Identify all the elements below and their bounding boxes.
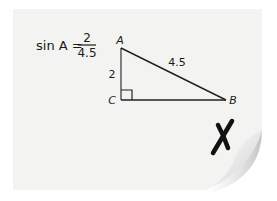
side-ab-label: 4.5 [168,56,186,69]
vertex-b-label: B [229,94,237,107]
vertex-a-label: A [115,34,124,47]
fraction-denominator: 4.5 [77,46,96,60]
vertex-c-label: C [108,94,116,107]
fraction-numerator: 2 [83,31,91,45]
side-ac-label: 2 [109,68,116,81]
note-card: sin A = 2 4.5 A C B 2 4.5 [0,0,277,201]
equation-lhs: sin A = [36,38,83,53]
